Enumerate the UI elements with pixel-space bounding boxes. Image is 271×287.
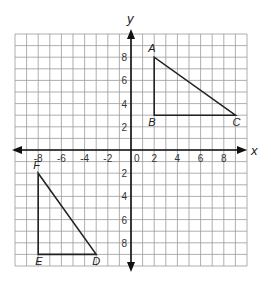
triangle-abc [154,57,235,115]
vertex-label-c: C [232,116,240,128]
y-tick-label: 8 [121,238,127,249]
y-axis-label: y [126,11,135,26]
y-tick-label: 4 [121,191,127,202]
x-axis-right-arrow-icon [237,146,247,154]
x-axis-label: x [250,143,258,158]
x-axis-left-arrow-icon [12,146,22,154]
x-tick-label: 8 [221,153,227,164]
y-tick-label: 6 [121,215,127,226]
axes [12,29,247,272]
y-tick-label: 2 [121,122,127,133]
vertex-label-e: E [35,255,43,267]
x-tick-label: -6 [57,153,66,164]
x-tick-label: 0 [134,153,140,164]
triangle-def [38,173,96,254]
y-tick-label: 8 [121,52,127,63]
y-tick-label: 6 [121,75,127,86]
x-tick-label: 4 [175,153,181,164]
y-tick-label: 2 [121,168,127,179]
vertex-label-b: B [148,116,155,128]
vertex-label-d: D [92,255,100,267]
y-axis-down-arrow-icon [127,262,135,272]
x-tick-label: -2 [103,153,112,164]
x-tick-label: 2 [151,153,157,164]
x-tick-label: 6 [198,153,204,164]
vertex-label-a: A [147,42,155,54]
y-tick-label: 4 [121,99,127,110]
x-tick-label: -4 [80,153,89,164]
coordinate-plane: -8-6-4-20246886422468 ABCDEF x y [0,0,271,287]
